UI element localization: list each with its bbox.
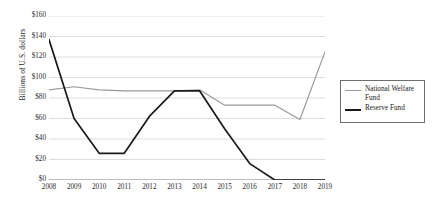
y-axis-tick-label: $40: [12, 135, 46, 142]
legend-line-black-icon: [345, 106, 361, 114]
legend-item-label: Reserve Fund: [365, 104, 405, 113]
y-axis-tick-label: $100: [12, 74, 46, 81]
plot-svg: [49, 16, 325, 180]
y-axis-tick-label: $20: [12, 156, 46, 163]
series-line: [49, 52, 325, 120]
y-axis-tick-label: $120: [12, 53, 46, 60]
legend-line-gray-icon: [345, 87, 361, 95]
chart-legend: National Welfare Fund Reserve Fund: [340, 80, 425, 123]
y-axis-tick-labels: $0$20$40$60$80$100$120$140$160: [12, 0, 46, 208]
legend-item-label: National Welfare Fund: [365, 85, 421, 103]
y-axis-tick-label: $160: [12, 12, 46, 19]
plot-area: [49, 16, 325, 180]
y-axis-tick-label: $80: [12, 94, 46, 101]
y-axis-tick-label: $60: [12, 115, 46, 122]
line-chart: Billions of U.S. dollars $0$20$40$60$80$…: [0, 0, 435, 208]
legend-item-national-welfare-fund: National Welfare Fund: [345, 85, 421, 103]
legend-item-reserve-fund: Reserve Fund: [345, 104, 421, 114]
x-axis-tick-labels: 2008200920102011201220132014201520162017…: [0, 183, 435, 195]
y-axis-tick-label: $140: [12, 33, 46, 40]
x-axis-tick-label: 2019: [310, 183, 340, 191]
